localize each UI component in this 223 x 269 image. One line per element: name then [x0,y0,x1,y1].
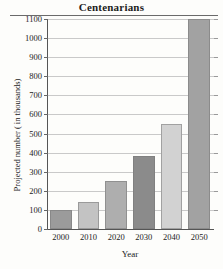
y-axis-tick-label: 100 [29,205,42,215]
x-axis-tick-label: 2030 [135,232,152,242]
x-axis-tick-label: 2050 [191,232,208,242]
right-tick-mark [214,76,218,77]
y-axis-tick-label: 800 [29,71,42,81]
bar-2040 [161,124,183,229]
bar-2000 [50,210,72,229]
right-tick-mark [214,191,218,192]
bar-chart: Centenarians Projected number ( in thous… [0,0,223,269]
x-axis-tick-label: 2040 [163,232,180,242]
chart-title: Centenarians [0,1,223,13]
y-axis-tick-label: 600 [29,109,42,119]
y-axis-tick-label: 1000 [25,33,42,43]
right-tick-mark [214,153,218,154]
x-axis-tick-labels: 200020102020203020402050 [47,232,213,246]
y-axis-tick-label: 700 [29,90,42,100]
y-axis-tick-label: 400 [29,148,42,158]
y-axis-tick-label: 500 [29,129,42,139]
bar-2010 [78,202,100,229]
bar-2020 [105,181,127,229]
bar-2050 [188,19,210,229]
right-tick-mark [214,210,218,211]
y-axis-tick-label: 900 [29,52,42,62]
y-axis-tick-label: 300 [29,167,42,177]
right-tick-mark [214,95,218,96]
right-tick-mark [214,19,218,20]
x-axis-tick-label: 2010 [80,232,97,242]
right-tick-mark [214,114,218,115]
right-tick-mark [214,172,218,173]
y-axis-tick-label: 1100 [25,14,42,24]
y-axis-tick-mark [44,229,48,230]
x-axis-tick-label: 2020 [108,232,125,242]
right-tick-mark [214,38,218,39]
x-axis-tick-label: 2000 [52,232,69,242]
y-axis-title: Projected number ( in thousands) [12,50,22,220]
bars-layer [47,19,213,229]
bar-2030 [133,156,155,229]
right-tick-mark [214,57,218,58]
y-axis-tick-label: 0 [38,224,42,234]
x-axis-title: Year [47,249,213,259]
right-tick-mark [214,134,218,135]
y-axis-tick-label: 200 [29,186,42,196]
